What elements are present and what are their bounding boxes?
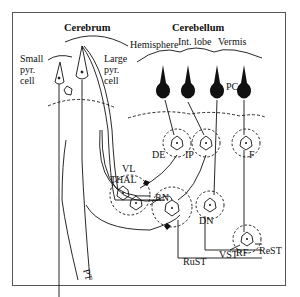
vermis-label: Vermis xyxy=(218,36,246,47)
cerebellar-cortex-arc xyxy=(137,48,262,62)
pt-label: PT xyxy=(81,268,95,282)
vl-label: VL xyxy=(122,163,135,174)
ip-label: IP xyxy=(185,149,194,160)
de-label: DE xyxy=(152,149,165,160)
purkinje-cell-hemisphere xyxy=(156,65,170,99)
f-label: F xyxy=(249,149,255,160)
pyramidal-tract xyxy=(62,200,78,280)
large-pyr-label-1: Large xyxy=(104,53,128,64)
small-pyramidal-cell xyxy=(55,62,64,84)
motor-pathways-diagram: Cerebrum Cerebellum Hemisphere Int. lobe… xyxy=(0,0,300,297)
rust-label: RuST xyxy=(183,256,206,267)
int-lobe-label: Int. lobe xyxy=(178,36,212,47)
cerebellum-heading: Cerebellum xyxy=(172,22,225,33)
large-pyr-label-2: pyr. xyxy=(104,64,119,75)
purkinje-cell-vermis-1 xyxy=(210,65,224,99)
small-pyr-label-1: Small xyxy=(20,53,44,64)
purkinje-cell-vermis-2 xyxy=(237,65,251,99)
thal-label: THAL xyxy=(110,174,137,185)
small-pyr-label-3: cell xyxy=(20,75,35,86)
interneuron xyxy=(64,86,72,95)
pc-label: PC xyxy=(226,81,239,92)
purkinje-cell-int-lobe xyxy=(181,65,195,99)
vestibulospinal-tract xyxy=(205,216,262,250)
hemisphere-label: Hemisphere xyxy=(130,39,179,50)
large-pyramidal-cell xyxy=(76,46,88,79)
cerebrum-heading: Cerebrum xyxy=(64,22,111,33)
vst-label: VST xyxy=(219,249,238,260)
rn-label: RN xyxy=(155,192,169,203)
dn-label: DN xyxy=(199,215,213,226)
cerebral-cortex-arc xyxy=(65,36,128,46)
large-pyr-label-3: cell xyxy=(104,75,119,86)
rest-label: ReST xyxy=(259,245,282,256)
small-pyr-label-2: pyr. xyxy=(20,64,35,75)
